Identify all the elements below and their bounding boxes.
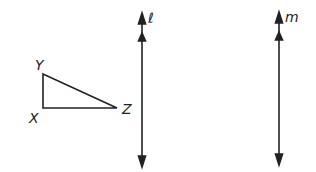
- line-l: [139, 13, 146, 167]
- line-label-m: m: [285, 10, 299, 24]
- vertex-label-x: X: [29, 111, 39, 125]
- diagram-svg: [0, 0, 316, 172]
- vertex-label-y: Y: [35, 58, 44, 72]
- diagram-canvas: Y X Z ℓ m: [0, 0, 316, 172]
- line-label-l: ℓ: [148, 11, 154, 25]
- line-m: [276, 12, 283, 165]
- vertex-label-z: Z: [122, 102, 132, 116]
- triangle-xyz: [43, 74, 117, 108]
